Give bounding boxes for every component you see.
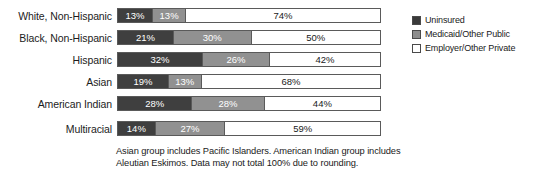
footnote-line: Asian group includes Pacific Islanders. …: [116, 145, 416, 157]
segment-uninsured: 32%: [118, 53, 202, 66]
segment-uninsured: 14%: [118, 122, 155, 135]
segment-uninsured: 19%: [118, 75, 168, 88]
segment-medicaid: 30%: [173, 31, 252, 44]
chart-footnote: Asian group includes Pacific Islanders. …: [116, 145, 416, 169]
bar-row: American Indian 28% 28% 44%: [0, 96, 400, 111]
bar-row: Asian 19% 13% 68%: [0, 74, 400, 89]
segment-private: 68%: [202, 75, 380, 88]
segment-private: 44%: [265, 97, 380, 110]
segment-medicaid: 13%: [152, 9, 186, 22]
bar-row: Black, Non-Hispanic 21% 30% 50%: [0, 30, 400, 45]
bar-row: Multiracial 14% 27% 59%: [0, 121, 400, 136]
segment-private: 50%: [252, 31, 380, 44]
segment-medicaid: 13%: [168, 75, 202, 88]
bar-track: 13% 13% 74%: [117, 8, 381, 23]
category-label: Hispanic: [0, 54, 117, 66]
legend-label: Uninsured: [425, 15, 465, 25]
segment-uninsured: 21%: [118, 31, 173, 44]
segment-uninsured: 28%: [118, 97, 191, 110]
bar-row: White, Non-Hispanic 13% 13% 74%: [0, 8, 400, 23]
category-label: Asian: [0, 76, 117, 88]
footnote-line: Aleutian Eskimos. Data may not total 100…: [116, 157, 416, 169]
legend-item-medicaid: Medicaid/Other Public: [412, 28, 530, 40]
category-label: Black, Non-Hispanic: [0, 32, 117, 44]
legend-label: Employer/Other Private: [425, 43, 515, 53]
legend-item-private: Employer/Other Private: [412, 42, 530, 54]
bar-track: 14% 27% 59%: [117, 121, 381, 136]
segment-private: 42%: [270, 53, 380, 66]
segment-medicaid: 26%: [202, 53, 270, 66]
legend-swatch-icon: [412, 44, 421, 53]
chart-plot-area: White, Non-Hispanic 13% 13% 74% Black, N…: [0, 8, 400, 140]
bar-track: 28% 28% 44%: [117, 96, 381, 111]
segment-private: 74%: [186, 9, 380, 22]
category-label: American Indian: [0, 98, 117, 110]
stacked-bar-chart-figure: White, Non-Hispanic 13% 13% 74% Black, N…: [0, 0, 533, 174]
segment-medicaid: 27%: [155, 122, 226, 135]
segment-private: 59%: [225, 122, 380, 135]
segment-uninsured: 13%: [118, 9, 152, 22]
chart-legend: Uninsured Medicaid/Other Public Employer…: [412, 14, 530, 56]
category-label: White, Non-Hispanic: [0, 10, 117, 22]
bar-track: 32% 26% 42%: [117, 52, 381, 67]
legend-swatch-icon: [412, 30, 421, 39]
legend-swatch-icon: [412, 16, 421, 25]
legend-label: Medicaid/Other Public: [425, 29, 510, 39]
segment-medicaid: 28%: [191, 97, 264, 110]
bar-track: 21% 30% 50%: [117, 30, 381, 45]
legend-item-uninsured: Uninsured: [412, 14, 530, 26]
bar-row: Hispanic 32% 26% 42%: [0, 52, 400, 67]
bar-track: 19% 13% 68%: [117, 74, 381, 89]
category-label: Multiracial: [0, 123, 117, 135]
